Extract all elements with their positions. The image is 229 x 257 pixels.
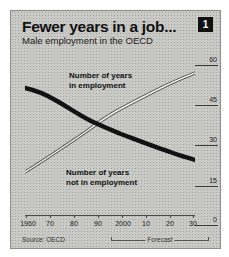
x-axis-tickmark-2000 <box>122 215 123 218</box>
x-axis-label-1980: 80 <box>70 220 78 227</box>
y-axis-tick-30: 30 <box>195 136 218 146</box>
x-axis-label-1990: 90 <box>94 220 102 227</box>
annotation-not-in-employment-line2: not in employment <box>66 178 137 188</box>
x-axis-label-2010: 10 <box>142 220 150 227</box>
x-axis-label-2020: 20 <box>166 220 174 227</box>
x-axis-tickmark-1970 <box>50 215 51 218</box>
annotation-in-employment-line2: in employment <box>69 81 132 91</box>
annotation-in-employment-line1: Number of years <box>69 71 132 81</box>
forecast-label: Forecast <box>145 236 174 243</box>
x-axis-label-1960: 1960 <box>20 220 36 227</box>
y-axis-tick-60: 60 <box>195 56 218 66</box>
x-axis-tickmark-2030 <box>193 215 194 218</box>
x-axis-tickmark-2020 <box>170 215 171 218</box>
source-note: Source: OECD <box>22 236 65 243</box>
chart-figure: Fewer years in a job... Male employment … <box>10 10 221 249</box>
x-axis-tickmark-2010 <box>146 215 147 218</box>
annotation-not-in-employment-line1: Number of years <box>66 168 137 178</box>
x-axis-label-2000: 2000 <box>115 220 131 227</box>
x-axis-label-1970: 70 <box>46 220 54 227</box>
x-axis-tickmark-1960 <box>26 215 27 218</box>
x-axis-tickmark-1990 <box>98 215 99 218</box>
y-axis-tick-45: 45 <box>195 96 218 106</box>
y-axis-tick-0: 0 <box>195 216 218 226</box>
page-title: Fewer years in a job... <box>22 18 176 36</box>
series-line-in-employment <box>25 88 195 160</box>
forecast-bracket: Forecast <box>111 235 209 246</box>
annotation-in-employment: Number of years in employment <box>69 71 132 90</box>
x-axis-tickmark-1980 <box>74 215 75 218</box>
chart-subtitle: Male employment in the OECD <box>22 35 153 46</box>
x-axis-label-2030: 30 <box>189 220 197 227</box>
annotation-not-in-employment: Number of years not in employment <box>66 168 137 187</box>
figure-number-badge: 1 <box>198 17 213 32</box>
y-axis-tick-15: 15 <box>195 177 218 187</box>
